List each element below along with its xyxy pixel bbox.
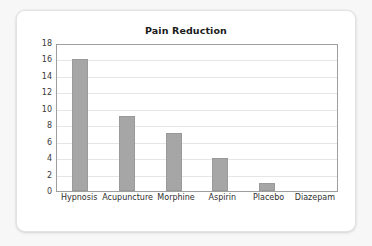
y-axis-tick-label: 6 (47, 139, 52, 147)
bars-layer (57, 45, 337, 191)
bar[interactable] (212, 158, 228, 191)
chart-title: Pain Reduction (17, 25, 355, 36)
y-axis-tick-label: 14 (42, 73, 52, 81)
chart-card: Pain Reduction 024681012141618 HypnosisA… (16, 10, 356, 232)
bar[interactable] (119, 116, 135, 191)
x-axis-tick-label: Acupuncture (102, 194, 153, 203)
x-axis-tick-label: Placebo (245, 194, 291, 203)
bar-slot (290, 45, 337, 191)
bar-slot (197, 45, 244, 191)
y-axis-tick-label: 0 (47, 188, 52, 196)
bar-slot (104, 45, 151, 191)
y-axis: 024681012141618 (36, 44, 55, 192)
bar-slot (150, 45, 197, 191)
x-axis-tick-label: Diazepam (292, 194, 338, 203)
y-axis-tick-label: 18 (42, 40, 52, 48)
x-axis: HypnosisAcupunctureMorphineAspirinPlaceb… (56, 194, 338, 203)
y-axis-tick-label: 12 (42, 89, 52, 97)
bar[interactable] (72, 59, 88, 191)
y-axis-tick-label: 16 (42, 56, 52, 64)
screenshot-root: Pain Reduction 024681012141618 HypnosisA… (0, 0, 372, 246)
x-axis-tick-label: Hypnosis (56, 194, 102, 203)
chart-plot-wrapper: 024681012141618 HypnosisAcupunctureMorph… (36, 44, 338, 202)
bar-slot (57, 45, 104, 191)
bar[interactable] (166, 133, 182, 191)
bar-slot (244, 45, 291, 191)
y-axis-tick-label: 4 (47, 155, 52, 163)
plot-area (56, 44, 338, 192)
y-axis-tick-label: 8 (47, 122, 52, 130)
bar[interactable] (259, 183, 275, 191)
x-axis-tick-label: Morphine (153, 194, 199, 203)
y-axis-tick-label: 10 (42, 106, 52, 114)
y-axis-tick-label: 2 (47, 172, 52, 180)
x-axis-tick-label: Aspirin (199, 194, 245, 203)
